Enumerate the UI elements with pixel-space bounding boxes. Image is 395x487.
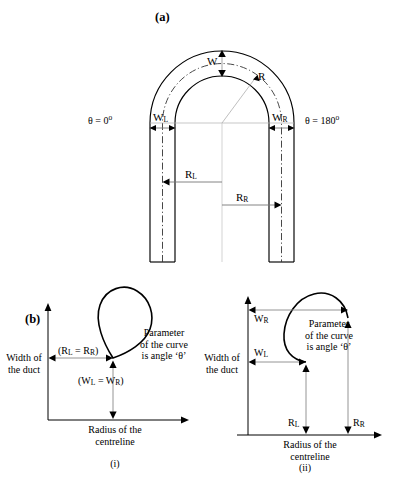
bii-curve-note-line2: of the curve bbox=[305, 330, 353, 341]
bi-WL-WR-close: ) bbox=[120, 375, 123, 386]
bii-x-axis-label-line1: Radius of the bbox=[283, 439, 336, 450]
bii-y-axis-label-line1: Width of bbox=[204, 352, 239, 363]
label-theta-right-text: θ = 180 bbox=[305, 115, 335, 126]
bii-RR-label: RR bbox=[353, 417, 365, 429]
bii-RR-sub: R bbox=[360, 420, 365, 429]
bi-RL-RR-open: (R bbox=[58, 345, 68, 356]
bi-x-axis-label-line2: centreline bbox=[95, 436, 134, 447]
label-WR-main: W bbox=[272, 111, 282, 123]
bii-WL-label: WL bbox=[254, 347, 268, 359]
bii-curve-note-line3: is angle ‘θ’ bbox=[307, 341, 352, 352]
bi-RL-RR-close: ) bbox=[95, 345, 98, 356]
label-theta-left-text: θ = 0 bbox=[88, 115, 108, 126]
label-W: W bbox=[207, 55, 217, 67]
label-RL: RL bbox=[185, 168, 197, 181]
label-RR: RR bbox=[236, 191, 248, 204]
panel-a-tag: (a) bbox=[155, 10, 170, 25]
bii-curve-note-line1: Parameter bbox=[309, 318, 350, 329]
bi-y-axis-label: Width of the duct bbox=[0, 352, 48, 375]
bi-curve-note-line1: Parameter bbox=[144, 327, 185, 338]
bi-x-axis-label-line1: Radius of the bbox=[88, 424, 141, 435]
bii-RR-main: R bbox=[353, 417, 360, 428]
bi-RL-RR-label: (RL = RR) bbox=[58, 345, 98, 357]
label-theta-left: θ = 0o bbox=[88, 113, 112, 126]
bii-WL-sub: L bbox=[263, 350, 268, 359]
bii-x-axis-label: Radius of the centreline bbox=[250, 439, 370, 462]
label-WR-sub: R bbox=[282, 115, 287, 124]
bii-RL-main: R bbox=[288, 417, 295, 428]
label-RR-sub: R bbox=[243, 195, 248, 204]
canvas-background bbox=[0, 0, 395, 487]
bii-x-axis-label-line2: centreline bbox=[290, 451, 329, 462]
label-theta-left-degree: o bbox=[108, 113, 112, 122]
bi-curve-note: Parameter of the curve is angle ‘θ’ bbox=[128, 327, 200, 362]
bi-RL-RR-mid: = R bbox=[73, 345, 90, 356]
label-WR: WR bbox=[272, 111, 287, 124]
bi-WL-WR-label: (WL = WR) bbox=[78, 375, 124, 387]
figure-diagram bbox=[0, 0, 395, 487]
bii-WR-sub: R bbox=[263, 316, 268, 325]
label-theta-right-degree: o bbox=[335, 113, 339, 122]
bii-y-axis-label-line2: the duct bbox=[206, 364, 238, 375]
bi-curve-note-line3: is angle ‘θ’ bbox=[142, 350, 187, 361]
bii-curve-note: Parameter of the curve is angle ‘θ’ bbox=[293, 318, 365, 353]
bii-caption: (ii) bbox=[285, 462, 325, 473]
label-theta-right: θ = 180o bbox=[305, 113, 339, 126]
label-RL-sub: L bbox=[192, 172, 197, 181]
bii-RL-label: RL bbox=[288, 417, 299, 429]
label-R: R bbox=[258, 70, 265, 82]
bi-x-axis-label: Radius of the centreline bbox=[55, 424, 175, 447]
bi-y-axis-label-line1: Width of bbox=[6, 352, 41, 363]
bii-y-axis-label: Width of the duct bbox=[196, 352, 248, 375]
bii-WR-label: WR bbox=[254, 313, 268, 325]
bi-caption: (i) bbox=[95, 458, 135, 469]
bi-curve-note-line2: of the curve bbox=[140, 339, 188, 350]
label-WL-sub: L bbox=[163, 115, 168, 124]
bi-y-axis-label-line2: the duct bbox=[8, 364, 40, 375]
bi-WL-WR-mid: = W bbox=[95, 375, 115, 386]
label-WL-main: W bbox=[153, 111, 163, 123]
label-WL: WL bbox=[153, 111, 168, 124]
bi-WL-WR-open: (W bbox=[78, 375, 91, 386]
bii-RL-sub: L bbox=[295, 420, 300, 429]
panel-b-tag: (b) bbox=[25, 312, 40, 327]
